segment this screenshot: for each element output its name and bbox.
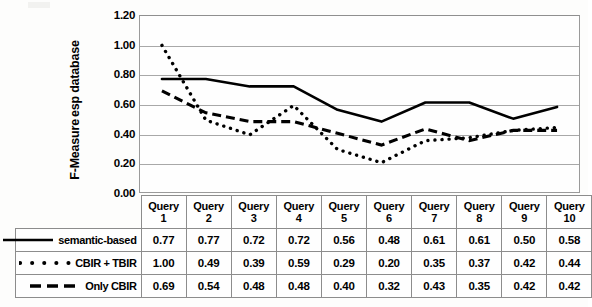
table-column-header-line: 2 [187,212,231,224]
table-cell: 0.61 [457,229,502,252]
table-column-header-line: Query [142,200,186,212]
table-cell: 0.49 [186,252,231,275]
table-column-header: Query1 [141,196,186,229]
table-cell: 0.59 [276,252,321,275]
legend-entry: Only CBIR [16,275,142,298]
table-cell: 0.43 [412,275,457,298]
table-cell: 0.61 [412,229,457,252]
table-column-header-line: 4 [277,212,321,224]
table-cell: 0.48 [366,229,411,252]
table-cell: 0.40 [321,275,366,298]
y-tick-label: 0.20 [114,157,135,169]
legend-label: CBIR + TBIR [75,257,136,269]
table-cell: 0.77 [141,229,186,252]
y-tick-label: 0.80 [114,68,135,80]
table-cell: 0.54 [186,275,231,298]
legend-label: semantic-based [58,234,136,246]
series-line-cbir-tbir [162,45,557,162]
y-axis-title-line-2: esp database [69,40,82,117]
table-column-header-line: 8 [457,212,501,224]
y-tick-label: 1.00 [114,39,135,51]
table-column-header: Query3 [231,196,276,229]
table-column-header-line: Query [232,200,276,212]
table-cell: 0.72 [276,229,321,252]
y-tick-label: 0.60 [114,98,135,110]
table-cell: 0.35 [457,275,502,298]
table-column-header-line: 3 [232,212,276,224]
table-column-header-line: 1 [142,212,186,224]
y-axis-tick-labels: 1.201.000.800.600.400.200.00 [96,14,138,198]
table-cell: 0.69 [141,275,186,298]
table-column-header: Query5 [321,196,366,229]
table-cell: 0.58 [547,229,592,252]
table-column-header-line: Query [547,200,591,212]
table-cell: 0.20 [366,252,411,275]
series-line-semantic-based [162,79,557,122]
table-cell: 0.42 [502,252,547,275]
table-cell: 0.39 [231,252,276,275]
table-column-header-line: Query [412,200,456,212]
y-tick-label: 0.40 [114,128,135,140]
table-cell: 0.37 [457,252,502,275]
table-cell: 0.42 [502,275,547,298]
table-column-header-line: 6 [367,212,411,224]
solid-line-icon [2,235,54,245]
table-column-header-line: Query [277,200,321,212]
y-axis-title-line-1: F-Measure [69,119,82,180]
table-cell: 0.72 [231,229,276,252]
table-cell: 1.00 [141,252,186,275]
table-column-header-line: 10 [547,212,591,224]
legend-label: Only CBIR [85,280,136,292]
table-cell: 0.35 [412,252,457,275]
plot-area [139,15,580,193]
table-row: Only CBIR0.690.540.480.480.400.320.430.3… [16,275,592,298]
table-cell: 0.44 [547,252,592,275]
table-column-header-line: Query [457,200,501,212]
dotted-line-icon [19,258,71,268]
legend-entry: semantic-based [16,229,142,252]
table-column-header: Query8 [457,196,502,229]
dashed-line-icon [29,281,81,291]
table-column-header-line: Query [502,200,546,212]
table-column-header-line: Query [367,200,411,212]
table-cell: 0.56 [321,229,366,252]
table-cell: 0.50 [502,229,547,252]
table-column-header: Query2 [186,196,231,229]
series-lines [140,16,579,192]
table-cell: 0.29 [321,252,366,275]
table-column-header-line: Query [187,200,231,212]
table-column-header-line: 5 [322,212,366,224]
table-row: semantic-based0.770.770.720.720.560.480.… [16,229,592,252]
table-column-header: Query6 [366,196,411,229]
series-line-only-cbir [162,91,557,145]
table-column-header-line: 9 [502,212,546,224]
data-table: Query1Query2Query3Query4Query5Query6Quer… [15,195,592,298]
table-column-header: Query10 [547,196,592,229]
legend-entry: CBIR + TBIR [16,252,142,275]
table-column-header-line: Query [322,200,366,212]
table-column-header: Query4 [276,196,321,229]
table-column-header: Query9 [502,196,547,229]
table-cell: 0.42 [547,275,592,298]
table-row: CBIR + TBIR1.000.490.390.590.290.200.350… [16,252,592,275]
table-cell: 0.48 [276,275,321,298]
table-cell: 0.32 [366,275,411,298]
table-header-row: Query1Query2Query3Query4Query5Query6Quer… [16,196,592,229]
y-tick-label: 1.20 [114,9,135,21]
table-head: Query1Query2Query3Query4Query5Query6Quer… [16,196,592,229]
table-cell: 0.77 [186,229,231,252]
table-cell: 0.48 [231,275,276,298]
table-body: semantic-based0.770.770.720.720.560.480.… [16,229,592,298]
table-column-header-line: 7 [412,212,456,224]
table-corner-cell [16,196,142,229]
table-column-header: Query7 [412,196,457,229]
